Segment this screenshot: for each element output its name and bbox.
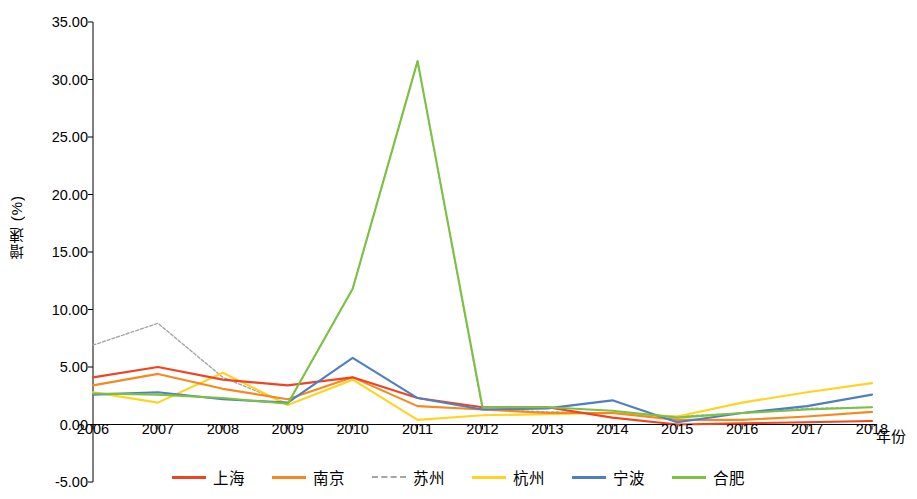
- series-line: [93, 61, 872, 416]
- legend-color-swatch: [672, 476, 706, 479]
- y-axis-tick: 30.00: [28, 73, 88, 87]
- x-axis-tick: 2015: [661, 421, 693, 437]
- x-axis-tick: 2006: [77, 421, 109, 437]
- x-axis-tick: 2016: [726, 421, 758, 437]
- legend-color-swatch: [272, 476, 306, 479]
- y-axis-tick: 20.00: [28, 188, 88, 202]
- y-axis-tick: 15.00: [28, 245, 88, 259]
- legend-label: 上海: [213, 466, 246, 488]
- legend-label: 南京: [313, 466, 346, 488]
- x-axis-tick: 2014: [596, 421, 628, 437]
- plot-area: [0, 0, 917, 499]
- legend-color-swatch: [172, 476, 206, 479]
- legend-color-swatch: [472, 476, 506, 479]
- x-axis-tick: 2013: [531, 421, 563, 437]
- y-axis-tick: 5.00: [28, 360, 88, 374]
- legend-item[interactable]: 杭州: [472, 466, 546, 488]
- legend-label: 杭州: [513, 466, 546, 488]
- series-line: [93, 61, 872, 418]
- legend-color-swatch: [572, 476, 606, 479]
- chart-container: 增速 (%) 年份 -5.000.005.0010.0015.0020.0025…: [0, 0, 917, 499]
- x-axis-tick: 2010: [337, 421, 369, 437]
- legend-item[interactable]: 苏州: [372, 466, 446, 488]
- legend: 上海南京苏州杭州宁波合肥: [0, 466, 917, 488]
- x-axis-tick: 2009: [272, 421, 304, 437]
- legend-item[interactable]: 合肥: [672, 466, 746, 488]
- legend-label: 苏州: [413, 466, 446, 488]
- x-axis-tick: 2017: [791, 421, 823, 437]
- y-axis-tick: 10.00: [28, 303, 88, 317]
- y-axis-label: 增速 (%): [6, 195, 26, 259]
- legend-label: 宁波: [613, 466, 646, 488]
- legend-color-swatch: [372, 476, 406, 478]
- legend-label: 合肥: [713, 466, 746, 488]
- legend-item[interactable]: 南京: [272, 466, 346, 488]
- x-axis-tick: 2011: [402, 421, 433, 437]
- x-axis-tick: 2018: [856, 421, 888, 437]
- y-axis-tick: 35.00: [28, 15, 88, 29]
- x-axis-tick: 2008: [207, 421, 239, 437]
- x-axis-tick: 2012: [466, 421, 498, 437]
- legend-item[interactable]: 宁波: [572, 466, 646, 488]
- y-axis-tick: 25.00: [28, 130, 88, 144]
- legend-item[interactable]: 上海: [172, 466, 246, 488]
- x-axis-tick: 2007: [142, 421, 174, 437]
